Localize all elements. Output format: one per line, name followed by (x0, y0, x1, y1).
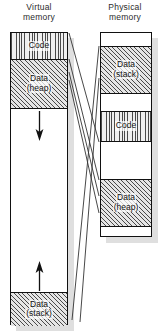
virtual-memory-segment-code: Code (11, 33, 67, 59)
physical-memory-title: Physical memory (90, 2, 160, 22)
mapping-line-stack-map-1 (72, 46, 99, 320)
physical-memory-title-line1: Physical (108, 2, 141, 12)
physical-memory-segment-stack-sublabel: (stack) (112, 70, 140, 80)
physical-memory-segment-code-label: Code (115, 121, 137, 131)
virtual-memory-title-line1: Virtual (26, 2, 51, 12)
stack-grow-arrow (11, 261, 67, 291)
virtual-memory-segment-heap: Data(heap) (11, 59, 67, 108)
heap-grow-arrow (11, 111, 67, 141)
virtual-memory-segment-heap-sublabel: (heap) (26, 84, 53, 94)
physical-memory-column: Data(stack)CodeData(heap) (100, 32, 152, 237)
physical-memory-divider (101, 179, 151, 180)
physical-memory-segment-free-mid-1 (101, 93, 151, 111)
physical-memory-divider (101, 226, 151, 227)
physical-memory-divider (101, 46, 151, 47)
physical-memory-divider (101, 93, 151, 94)
mapping-line-stack-map-2 (80, 78, 99, 322)
physical-memory-title-line2: memory (90, 12, 160, 22)
memory-mapping-diagram: Virtual memory Physical memory CodeData(… (0, 0, 161, 335)
virtual-memory-column: CodeData(heap)Data(stack) (10, 32, 68, 325)
physical-memory-segment-heap-sublabel: (heap) (113, 203, 140, 213)
physical-memory-divider (101, 111, 151, 112)
virtual-memory-divider (11, 59, 67, 60)
virtual-memory-segment-stack-sublabel: (stack) (25, 309, 53, 319)
virtual-memory-title: Virtual memory (4, 2, 74, 22)
physical-memory-segment-free-top (101, 33, 151, 46)
virtual-memory-segment-stack: Data(stack) (11, 292, 67, 326)
physical-memory-segment-free-bottom (101, 226, 151, 238)
virtual-memory-divider (11, 108, 67, 109)
physical-memory-segment-free-mid-2 (101, 141, 151, 179)
physical-memory-divider (101, 141, 151, 142)
physical-memory-segment-stack: Data(stack) (101, 46, 151, 93)
virtual-memory-title-line2: memory (4, 12, 74, 22)
virtual-memory-divider (11, 292, 67, 293)
physical-memory-segment-heap: Data(heap) (101, 179, 151, 226)
virtual-memory-segment-code-label: Code (28, 41, 50, 51)
physical-memory-segment-code: Code (101, 111, 151, 141)
